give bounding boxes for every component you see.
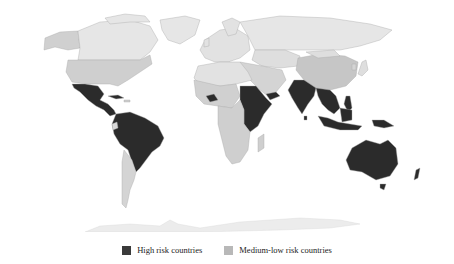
india <box>288 80 316 114</box>
alaska <box>44 31 80 50</box>
legend: High risk countries Medium-low risk coun… <box>0 240 454 260</box>
canada <box>78 20 158 60</box>
sri-lanka <box>304 116 307 120</box>
medium-low-risk-swatch <box>224 246 233 255</box>
borneo <box>340 108 352 122</box>
russia <box>240 16 392 50</box>
uk <box>204 38 209 47</box>
indonesia <box>318 116 362 130</box>
southeast-asia <box>316 88 340 114</box>
legend-label-medium-low-risk: Medium-low risk countries <box>239 245 332 255</box>
greenland <box>160 16 200 44</box>
hispaniola <box>124 100 130 102</box>
antarctica <box>85 218 360 232</box>
japan <box>358 60 368 76</box>
legend-item-high-risk: High risk countries <box>122 245 202 255</box>
mexico-central-america <box>72 84 116 116</box>
high-risk-swatch <box>122 246 131 255</box>
korea <box>352 64 356 70</box>
new-zealand <box>414 168 420 180</box>
legend-item-medium-low-risk: Medium-low risk countries <box>224 245 332 255</box>
south-america-high <box>112 112 164 172</box>
world-map <box>0 0 454 232</box>
australia <box>346 140 398 180</box>
legend-label-high-risk: High risk countries <box>137 245 202 255</box>
cuba <box>108 95 124 99</box>
madagascar <box>258 134 264 152</box>
tasmania <box>380 184 386 190</box>
papua-new-guinea <box>372 120 394 128</box>
